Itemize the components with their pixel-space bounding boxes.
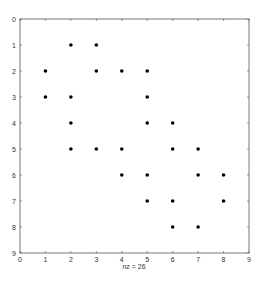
data-point <box>171 147 175 151</box>
data-point <box>145 199 149 203</box>
y-tick-label: 8 <box>12 224 16 231</box>
x-tick-labels: 0123456789 <box>18 256 251 263</box>
plot-area <box>20 19 249 253</box>
y-tick-label: 3 <box>12 94 16 101</box>
data-point <box>69 121 73 125</box>
spy-plot: 0123456789 0123456789 nz = 26 <box>0 0 260 282</box>
data-point <box>95 147 99 151</box>
x-tick-label: 3 <box>94 256 98 263</box>
data-point <box>196 225 200 229</box>
data-point <box>145 95 149 99</box>
data-point <box>196 173 200 177</box>
y-tick-label: 9 <box>12 250 16 257</box>
y-tick-label: 0 <box>12 16 16 23</box>
y-tick-label: 4 <box>12 120 16 127</box>
y-tick-label: 7 <box>12 198 16 205</box>
data-point <box>69 95 73 99</box>
y-tick-label: 5 <box>12 146 16 153</box>
y-tick-labels: 0123456789 <box>12 16 16 257</box>
data-point <box>222 173 226 177</box>
data-point <box>95 43 99 47</box>
data-point <box>95 69 99 73</box>
x-tick-label: 2 <box>69 256 73 263</box>
data-point <box>171 121 175 125</box>
data-point <box>69 147 73 151</box>
x-tick-label: 1 <box>43 256 47 263</box>
data-point <box>196 147 200 151</box>
x-tick-label: 4 <box>120 256 124 263</box>
data-point <box>120 173 124 177</box>
data-point <box>120 69 124 73</box>
data-point <box>44 95 48 99</box>
y-tick-label: 2 <box>12 68 16 75</box>
y-tick-label: 1 <box>12 42 16 49</box>
x-tick-label: 7 <box>196 256 200 263</box>
x-tick-label: 0 <box>18 256 22 263</box>
data-point <box>171 199 175 203</box>
x-tick-label: 8 <box>222 256 226 263</box>
data-point <box>44 69 48 73</box>
data-point <box>120 147 124 151</box>
data-point <box>171 225 175 229</box>
x-axis-label: nz = 26 <box>122 263 145 270</box>
x-tick-label: 6 <box>171 256 175 263</box>
data-point <box>145 173 149 177</box>
x-tick-label: 5 <box>145 256 149 263</box>
data-point <box>145 69 149 73</box>
data-point <box>222 199 226 203</box>
data-point <box>145 121 149 125</box>
y-tick-label: 6 <box>12 172 16 179</box>
data-point <box>69 43 73 47</box>
x-tick-label: 9 <box>247 256 251 263</box>
